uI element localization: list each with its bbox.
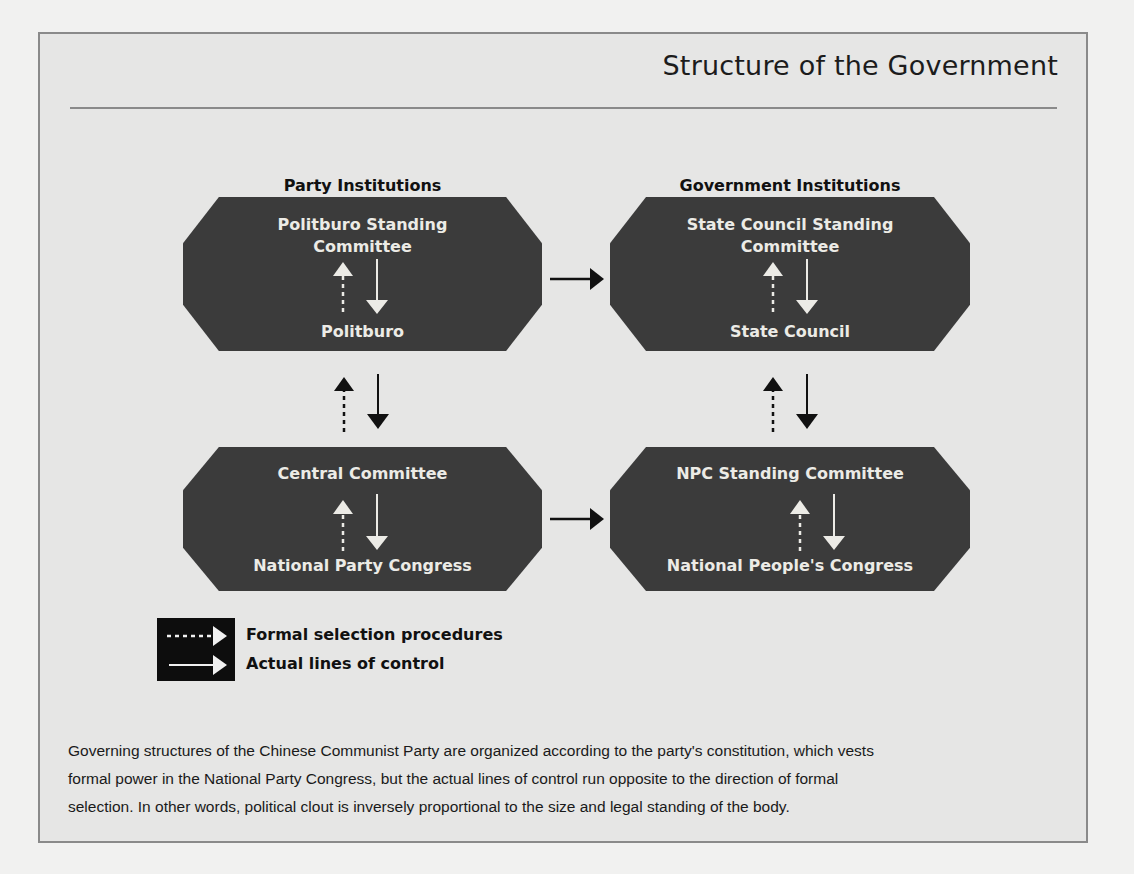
caption-line: formal power in the National Party Congr…	[68, 765, 1028, 793]
control-arrow-icon	[367, 374, 389, 429]
formal-selection-arrow-icon	[333, 262, 353, 312]
control-arrow-icon	[823, 494, 845, 550]
dotted-arrow-icon	[167, 626, 227, 646]
caption-line: Governing structures of the Chinese Comm…	[68, 737, 1028, 765]
control-arrow-icon	[550, 268, 604, 290]
formal-selection-arrow-icon	[333, 500, 353, 551]
formal-selection-arrow-icon	[790, 500, 810, 551]
figure-caption: Governing structures of the Chinese Comm…	[68, 737, 1028, 821]
legend-key	[157, 618, 235, 681]
solid-arrow-icon	[169, 655, 227, 675]
formal-selection-arrow-icon	[763, 262, 783, 312]
legend-formal-selection: Formal selection procedures	[246, 625, 503, 644]
control-arrow-icon	[550, 508, 604, 530]
legend-arrows	[157, 618, 235, 681]
control-arrow-icon	[366, 259, 388, 314]
control-arrow-icon	[366, 494, 388, 550]
legend-actual-control: Actual lines of control	[246, 654, 444, 673]
formal-selection-arrow-icon	[334, 377, 354, 432]
control-arrow-icon	[796, 259, 818, 314]
formal-selection-arrow-icon	[763, 377, 783, 432]
control-arrow-icon	[796, 374, 818, 429]
caption-line: selection. In other words, political clo…	[68, 793, 1028, 821]
